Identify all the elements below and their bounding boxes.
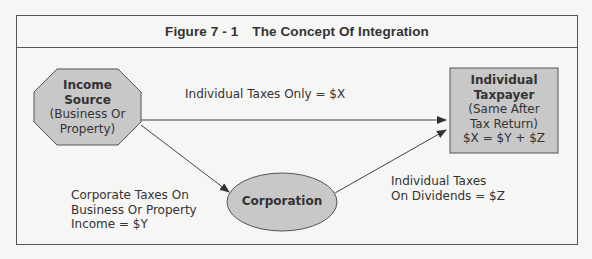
edge-dividends-label-1: Individual Taxes bbox=[391, 174, 505, 189]
edge-corporate-label-1: Corporate Taxes On bbox=[71, 188, 197, 203]
taxpayer-sub-1: (Same After bbox=[450, 102, 558, 117]
taxpayer-label: Individual Taxpayer (Same After Tax Retu… bbox=[450, 73, 558, 146]
edge-corporate-label-2: Business Or Property bbox=[71, 203, 197, 218]
taxpayer-sub-3: $X = $Y + $Z bbox=[450, 131, 558, 146]
corporation-title: Corporation bbox=[227, 194, 337, 209]
edge-corporate-label: Corporate Taxes On Business Or Property … bbox=[71, 188, 197, 232]
taxpayer-sub-2: Tax Return) bbox=[450, 117, 558, 132]
income-source-sub-2: Property) bbox=[34, 122, 141, 137]
income-source-label: Income Source (Business Or Property) bbox=[34, 78, 141, 136]
taxpayer-title-1: Individual bbox=[450, 73, 558, 88]
edge-direct-label: Individual Taxes Only = $X bbox=[185, 87, 345, 102]
income-source-title-1: Income bbox=[34, 78, 141, 93]
edge-dividends-label-2: On Dividends = $Z bbox=[391, 189, 505, 204]
edge-corporate-label-3: Income = $Y bbox=[71, 217, 197, 232]
corporation-label: Corporation bbox=[227, 194, 337, 209]
income-source-title-2: Source bbox=[34, 93, 141, 108]
edge-corporate-arrow bbox=[141, 125, 229, 192]
taxpayer-title-2: Taxpayer bbox=[450, 88, 558, 103]
edge-dividends-label: Individual Taxes On Dividends = $Z bbox=[391, 174, 505, 203]
income-source-sub-1: (Business Or bbox=[34, 107, 141, 122]
